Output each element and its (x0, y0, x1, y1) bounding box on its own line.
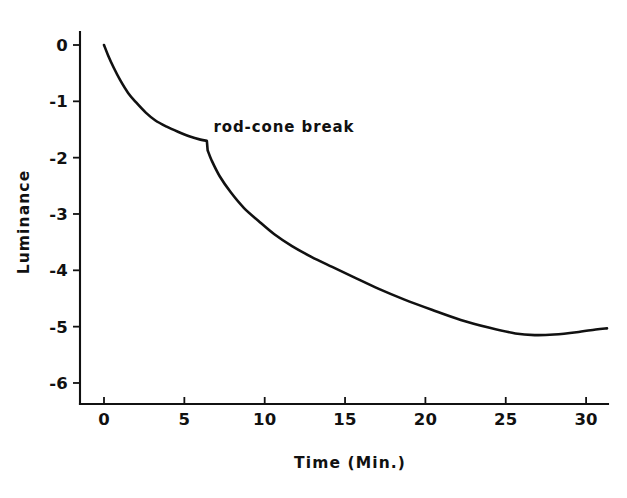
x-tick-label-0: 0 (98, 410, 110, 429)
x-axis-title: Time (Min.) (294, 454, 406, 472)
x-tick-label-6: 30 (574, 410, 597, 429)
x-tick-label-3: 15 (333, 410, 356, 429)
chart-canvas: 0-1-2-3-4-5-6 051015202530 rod-cone brea… (0, 0, 627, 498)
x-tick-label-4: 20 (414, 410, 437, 429)
x-tick-label-1: 5 (179, 410, 191, 429)
y-axis-title: Luminance (15, 170, 33, 275)
y-axis-tick-labels: 0-1-2-3-4-5-6 (49, 36, 68, 393)
y-tick-label-0: 0 (56, 36, 68, 55)
luminance-curve (104, 45, 607, 335)
y-tick-label-2: -2 (49, 149, 68, 168)
chart-annotations: rod-cone break (213, 118, 354, 136)
annotation-rod-cone-break: rod-cone break (213, 118, 354, 136)
x-tick-label-5: 25 (494, 410, 517, 429)
y-tick-label-6: -6 (49, 374, 68, 393)
y-tick-label-1: -1 (49, 92, 68, 111)
y-tick-label-4: -4 (49, 261, 68, 280)
x-axis-tick-labels: 051015202530 (98, 410, 598, 429)
y-tick-label-5: -5 (49, 318, 68, 337)
x-tick-label-2: 10 (253, 410, 276, 429)
dark-adaptation-chart: 0-1-2-3-4-5-6 051015202530 rod-cone brea… (0, 0, 627, 498)
y-tick-label-3: -3 (49, 205, 68, 224)
